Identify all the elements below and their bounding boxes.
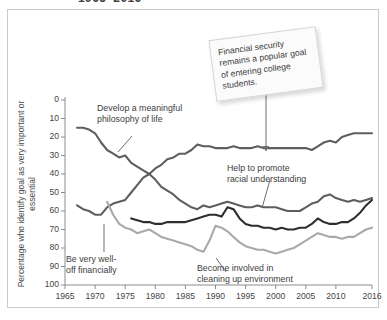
- series-line: [131, 200, 372, 230]
- x-tick-label: 2005: [289, 291, 323, 301]
- y-tick-label: 30: [37, 150, 59, 160]
- y-tick-label: 60: [37, 205, 59, 215]
- y-tick-label: 10: [37, 113, 59, 123]
- x-tick-label: 1965: [48, 291, 82, 301]
- leader-racial: [262, 180, 270, 208]
- annotation-philosophy: Develop a meaningful philosophy of life: [97, 103, 207, 124]
- annotation-environment: Become involved in cleaning up environme…: [197, 263, 322, 284]
- x-tick-label: 1990: [198, 291, 232, 301]
- annotation-welloff: Be very well- off financially: [66, 254, 136, 275]
- series-line: [107, 202, 372, 254]
- y-tick-label: 90: [37, 261, 59, 271]
- x-tick-label: 2016: [355, 291, 387, 301]
- chart-figure: 1965–2016 Percentage who identify goal a…: [0, 0, 387, 320]
- x-tick-label: 2010: [319, 291, 353, 301]
- chart-plot: [0, 0, 387, 320]
- y-tick-label: 40: [37, 168, 59, 178]
- x-tick-label: 1995: [229, 291, 263, 301]
- y-tick-label: 70: [37, 224, 59, 234]
- x-tick-label: 1985: [168, 291, 202, 301]
- x-tick-label: 1980: [138, 291, 172, 301]
- leader-philosophy: [118, 136, 132, 152]
- y-tick-label: 50: [37, 187, 59, 197]
- y-tick-label: 80: [37, 242, 59, 252]
- y-tick-label: 100: [37, 279, 59, 289]
- annotation-racial: Help to promote racial understanding: [227, 163, 327, 184]
- x-tick-label: 2000: [259, 291, 293, 301]
- x-tick-label: 1970: [78, 291, 112, 301]
- y-tick-label: 20: [37, 131, 59, 141]
- callout-text: Financial security remains a popular goa…: [217, 35, 315, 92]
- x-tick-label: 1975: [108, 291, 142, 301]
- y-tick-label: 0: [37, 94, 59, 104]
